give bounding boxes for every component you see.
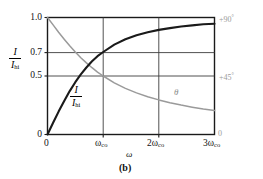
annotation-amplitude-curve: I Ihi xyxy=(70,85,82,108)
right-axis-label-0deg: 0 xyxy=(218,128,222,138)
annotation-amplitude-fraction: I Ihi xyxy=(70,85,82,108)
ytick-label-0: 0 xyxy=(14,130,42,140)
xtick-label-2wco: 2ωco xyxy=(147,139,164,149)
annotation-amplitude-denominator: Ihi xyxy=(70,98,82,109)
xtick-label-3wco: 3ωco xyxy=(203,139,220,149)
xtick-label-wco: ωco xyxy=(95,139,107,149)
figure-panel-b: I Ihi 1.0 0.7 0.5 0 0 ωco 2ωco 3ωco +90°… xyxy=(0,0,263,179)
annotation-amplitude-numerator: I xyxy=(70,85,82,96)
ytick-label-0.5: 0.5 xyxy=(14,71,42,81)
ytick-label-0.7: 0.7 xyxy=(14,48,42,58)
figure-caption: (b) xyxy=(119,163,131,173)
right-axis-label-90deg: +90° xyxy=(219,14,234,24)
right-axis-label-45deg: +45° xyxy=(219,72,234,82)
x-axis-label: ω xyxy=(126,150,132,159)
annotation-phase-curve: θ xyxy=(174,88,178,97)
y-axis-label-denominator: Ihi xyxy=(9,60,21,71)
ytick-label-1.0: 1.0 xyxy=(14,13,42,23)
xtick-label-0: 0 xyxy=(44,139,49,149)
